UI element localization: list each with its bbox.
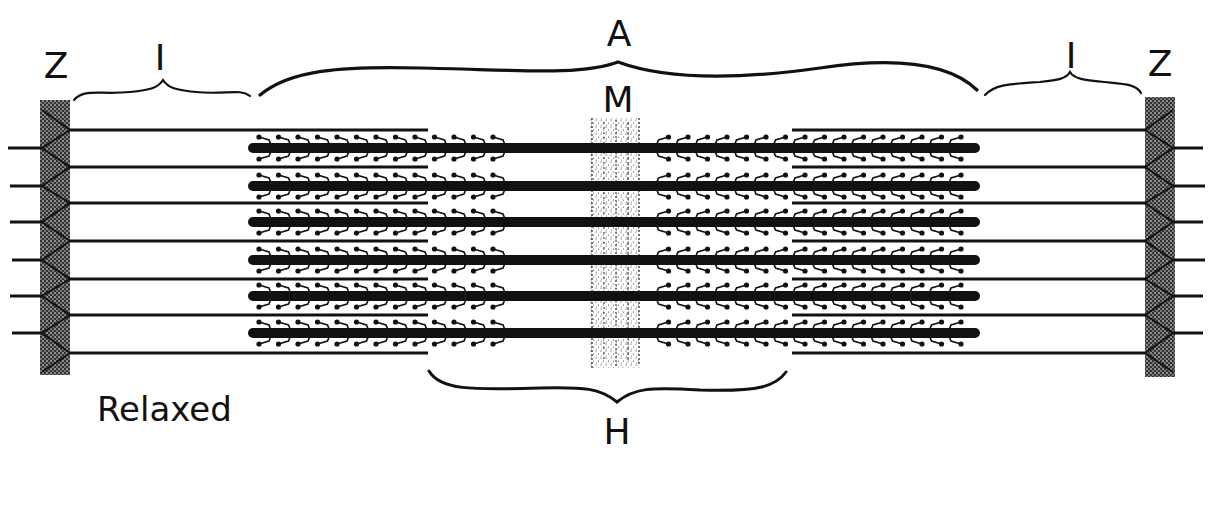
state-label-relaxed: Relaxed [97,392,232,426]
z-disc-left [40,100,70,375]
i-band-right-brace [985,72,1141,95]
z-line-right-label: Z [1148,46,1173,82]
z-disc-right [1145,97,1175,377]
h-zone-label: H [603,414,630,450]
i-band-left-brace [74,80,250,100]
m-line-label: M [602,82,633,118]
h-zone-brace [429,371,786,402]
z-line-left-label: Z [44,48,69,84]
i-band-left-label: I [155,40,166,76]
i-band-right-label: I [1066,38,1077,74]
a-band-label: A [607,16,632,52]
